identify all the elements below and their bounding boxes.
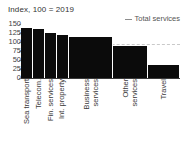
y-axis: 0255075100125150 xyxy=(0,0,21,143)
x-axis-labels: Sea transportTelecom.Fin. servicesInt. p… xyxy=(21,79,180,143)
x-axis-label: Other services xyxy=(113,79,147,141)
x-axis-label: Sea transport xyxy=(21,79,33,141)
plot-area xyxy=(21,24,180,78)
bar xyxy=(57,35,69,78)
x-axis-label: Telecom. xyxy=(33,79,45,141)
bar xyxy=(148,65,180,78)
x-axis-label: Business services xyxy=(69,79,113,141)
legend-label-total-services: Total services xyxy=(135,15,180,23)
x-axis-label: Int. property xyxy=(57,79,69,141)
bar xyxy=(69,37,113,78)
bar xyxy=(113,46,147,78)
x-axis-label: Fin. services xyxy=(45,79,56,141)
total-services-line-icon xyxy=(125,19,132,20)
bar xyxy=(33,29,45,78)
bar xyxy=(21,28,33,78)
x-axis-label: Travel xyxy=(148,79,180,141)
bar xyxy=(45,33,56,78)
chart-container: Index, 100 = 2019 Total services 0255075… xyxy=(0,0,184,143)
chart-legend: Total services xyxy=(125,15,180,23)
